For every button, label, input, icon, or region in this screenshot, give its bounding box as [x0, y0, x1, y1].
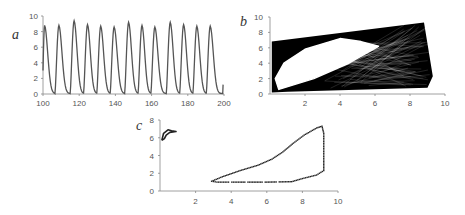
loop-point: [291, 181, 292, 182]
loop-point: [223, 181, 224, 182]
loop-point: [278, 154, 279, 155]
y-tick-label: 0: [150, 187, 155, 196]
loop-point: [308, 176, 309, 177]
y-tick-label: 10: [254, 13, 263, 22]
x-tick-label: 10: [441, 99, 450, 108]
loop-point: [319, 126, 320, 127]
y-tick-label: 0: [259, 90, 264, 99]
loop-point: [220, 177, 221, 178]
loop-point: [250, 167, 251, 168]
loop-point: [263, 162, 264, 163]
loop-point: [231, 181, 232, 182]
y-tick-label: 8: [34, 28, 39, 37]
time-series-line: [43, 21, 223, 94]
loop-point: [323, 144, 324, 145]
loop-point: [323, 158, 324, 159]
loop-point: [282, 181, 283, 182]
loop-point: [214, 181, 215, 182]
y-tick-label: 4: [150, 152, 155, 161]
loop-point: [323, 154, 324, 155]
loop-point: [271, 181, 272, 182]
loop-point: [319, 173, 320, 174]
loop-point: [323, 131, 324, 132]
loop-point: [306, 177, 307, 178]
loop-point: [279, 153, 280, 154]
loop-point: [315, 128, 316, 129]
loop-point: [232, 172, 233, 173]
loop-point: [241, 181, 242, 182]
x-tick-label: 100: [36, 99, 50, 108]
loop-point: [323, 165, 324, 166]
loop-point: [286, 181, 287, 182]
loop-point: [323, 146, 324, 147]
loop-point: [267, 160, 268, 161]
loop-point: [323, 139, 324, 140]
loop-point: [216, 179, 217, 180]
panel-label-c: c: [136, 118, 143, 133]
loop-point: [294, 180, 295, 181]
loop-point: [302, 135, 303, 136]
loop-point: [299, 137, 300, 138]
loop-point: [233, 172, 234, 173]
loop-point: [323, 148, 324, 149]
loop-point: [233, 181, 234, 182]
loop-point: [279, 181, 280, 182]
loop-point: [310, 176, 311, 177]
y-tick-label: 2: [259, 75, 264, 84]
loop-point: [236, 181, 237, 182]
loop-point: [266, 161, 267, 162]
loop-point: [303, 177, 304, 178]
loop-point: [220, 181, 221, 182]
loop-point: [322, 130, 323, 131]
loop-point: [321, 126, 322, 127]
panel-c: c02468246810: [136, 116, 343, 206]
loop-point: [247, 181, 248, 182]
loop-point: [323, 161, 324, 162]
loop-point: [323, 153, 324, 154]
loop-point: [231, 173, 232, 174]
loop-point: [265, 181, 266, 182]
loop-point: [254, 181, 255, 182]
loop-point: [255, 181, 256, 182]
loop-point: [316, 127, 317, 128]
loop-point: [303, 134, 304, 135]
loop-point: [238, 181, 239, 182]
loop-point: [289, 181, 290, 182]
loop-point: [306, 133, 307, 134]
x-tick-label: 8: [300, 197, 305, 206]
loop-point: [295, 140, 296, 141]
loop-point: [323, 136, 324, 137]
loop-point: [271, 158, 272, 159]
loop-point: [269, 181, 270, 182]
loop-point: [297, 139, 298, 140]
loop-point: [283, 181, 284, 182]
loop-point: [288, 181, 289, 182]
loop-point: [261, 181, 262, 182]
x-tick-label: 6: [265, 197, 270, 206]
x-tick-label: 120: [73, 99, 87, 108]
loop-point: [320, 172, 321, 173]
figure: a0246810100120140160180200 b024681024681…: [0, 0, 465, 215]
loop-point: [277, 155, 278, 156]
loop-point: [213, 181, 214, 182]
loop-point: [245, 168, 246, 169]
loop-point: [302, 178, 303, 179]
loop-point: [297, 179, 298, 180]
x-tick-label: 2: [193, 197, 198, 206]
loop-point: [228, 174, 229, 175]
loop-point: [296, 180, 297, 181]
loop-point: [294, 141, 295, 142]
loop-point: [249, 181, 250, 182]
loop-point: [298, 138, 299, 139]
loop-point: [247, 168, 248, 169]
y-tick-label: 0: [34, 90, 39, 99]
panel-label-b: b: [240, 14, 247, 29]
loop-point: [257, 165, 258, 166]
loop-point: [243, 181, 244, 182]
loop-point: [322, 171, 323, 172]
loop-point: [323, 143, 324, 144]
x-tick-label: 6: [373, 99, 378, 108]
loop-point: [272, 181, 273, 182]
loop-point: [275, 156, 276, 157]
loop-point: [219, 177, 220, 178]
